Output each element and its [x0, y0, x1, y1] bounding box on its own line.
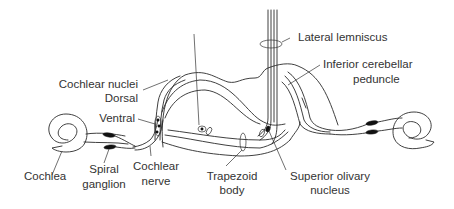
label-lateral-lemniscus: Lateral lemniscus [298, 31, 387, 44]
label-superior-olivary-nucleus-line1: Superior olivary [278, 170, 382, 183]
label-cochlea: Cochlea [24, 170, 66, 183]
right-spiral-ganglion-lower [366, 129, 378, 134]
auditory-pathway-diagram: Lateral lemniscus Inferior cerebellar pe… [0, 0, 454, 209]
label-superior-olivary-nucleus-line2: nucleus [278, 184, 382, 197]
label-spiral-ganglion-line2: ganglion [79, 178, 129, 191]
left-spiral-ganglion-lower [104, 144, 116, 149]
label-inferior-cerebellar-peduncle-line1: Inferior cerebellar [323, 58, 412, 71]
label-cochlear-nuclei: Cochlear nuclei [40, 78, 138, 91]
label-dorsal: Dorsal [80, 92, 138, 105]
label-trapezoid-body-line1: Trapezoid [202, 170, 262, 183]
label-cochlear-nerve-line1: Cochlear [131, 160, 181, 173]
right-cochlea [378, 112, 434, 149]
leader-inferior-cerebellar-peduncle [288, 65, 320, 85]
trapezoid-body-ellipse [240, 133, 246, 151]
leader-ventral [138, 119, 155, 124]
left-cochlear-nuclei [155, 76, 180, 140]
label-ventral: Ventral [80, 112, 135, 125]
brainstem-outline [162, 64, 338, 147]
leader-cochlear-nerve [150, 146, 151, 156]
leader-dorsal [194, 34, 199, 125]
leader-trapezoid-body [226, 150, 242, 166]
left-spiral-ganglion-upper [103, 132, 115, 138]
leader-cochlear-nuclei [143, 80, 168, 90]
label-cochlear-nerve-line2: nerve [131, 175, 181, 188]
right-spiral-ganglion-upper [366, 120, 379, 126]
label-inferior-cerebellar-peduncle-line2: peduncle [353, 73, 400, 86]
leader-spiral-ganglion [104, 149, 109, 163]
lateral-lemniscus-tract [258, 10, 277, 144]
leader-lateral-lemniscus [282, 38, 290, 42]
label-spiral-ganglion-line1: Spiral [79, 163, 129, 176]
label-trapezoid-body-line2: body [202, 184, 262, 197]
